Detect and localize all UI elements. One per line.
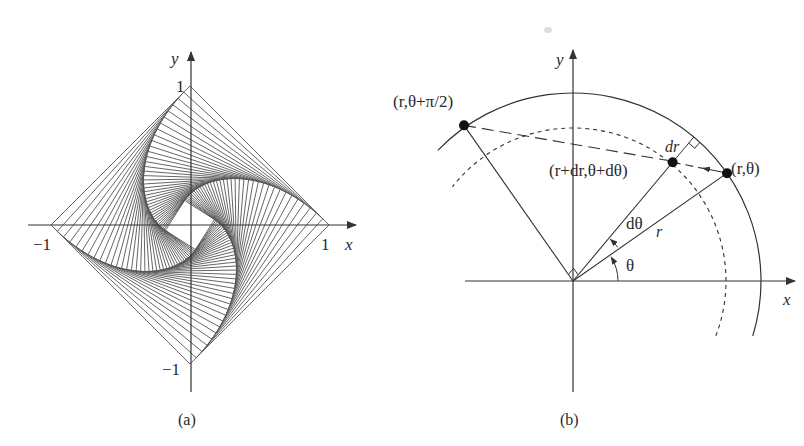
caption-b: (b) bbox=[560, 411, 579, 429]
label-point-r-dr: (r+dr,θ+dθ) bbox=[549, 161, 628, 180]
label-dtheta: dθ bbox=[626, 214, 643, 233]
pursuit-chord bbox=[212, 203, 304, 339]
pursuit-chord bbox=[88, 255, 220, 327]
dashed-chase-line-short bbox=[673, 162, 707, 169]
radius-line-theta-pi2 bbox=[464, 125, 573, 281]
pursuit-chord bbox=[196, 219, 322, 358]
theta-angle-arc bbox=[611, 257, 618, 281]
pursuit-chord bbox=[178, 99, 316, 214]
x-axis-label-b: x bbox=[782, 290, 791, 309]
right-angle-marker-dr bbox=[689, 142, 700, 148]
point-r-theta-pi2 bbox=[459, 120, 469, 130]
caption-a: (a) bbox=[178, 411, 196, 429]
dtheta-angle-arc bbox=[610, 239, 617, 247]
label-point-r-theta: (r,θ) bbox=[731, 159, 760, 178]
dashed-chase-line-long bbox=[464, 125, 667, 160]
tick-label-y-neg: −1 bbox=[162, 360, 180, 379]
panel-b: x y (r,θ) (r,θ+π/2) (r+dr,θ+dθ) dr r bbox=[393, 50, 795, 429]
pursuit-chord bbox=[168, 111, 304, 203]
inner-dashed-arc bbox=[452, 128, 726, 336]
pursuit-chord bbox=[184, 92, 323, 218]
pursuit-chord bbox=[57, 92, 183, 231]
pursuit-chord bbox=[160, 123, 292, 195]
label-theta: θ bbox=[626, 256, 634, 275]
velocity-arrow bbox=[703, 168, 723, 172]
pursuit-chord bbox=[223, 192, 286, 321]
x-axis-label-a: x bbox=[344, 235, 353, 254]
tick-label-x-neg: −1 bbox=[33, 235, 51, 254]
pursuit-chord bbox=[94, 129, 157, 258]
smudge-mark bbox=[544, 27, 552, 33]
pursuit-chord bbox=[76, 111, 168, 247]
pursuit-chord bbox=[94, 258, 223, 321]
figure-canvas: x y 1 −1 1 −1 (a) x y bbox=[0, 0, 804, 446]
pursuit-chord bbox=[64, 237, 202, 352]
pursuit-chord bbox=[220, 195, 292, 327]
label-point-r-theta-pi2: (r,θ+π/2) bbox=[393, 92, 453, 111]
y-axis-label-b: y bbox=[554, 50, 564, 69]
pursuit-chord bbox=[88, 123, 160, 255]
label-dr: dr bbox=[665, 138, 680, 155]
pursuit-chord bbox=[202, 213, 317, 351]
label-r: r bbox=[656, 223, 663, 240]
point-r-dr-theta-dtheta bbox=[668, 157, 678, 167]
pursuit-chord bbox=[157, 129, 286, 192]
tick-label-y-pos: 1 bbox=[176, 77, 185, 96]
tick-label-x-pos: 1 bbox=[321, 235, 330, 254]
pursuit-chord bbox=[57, 231, 196, 357]
y-axis-label-a: y bbox=[169, 49, 179, 68]
pursuit-chord bbox=[64, 99, 179, 237]
panel-a: x y 1 −1 1 −1 (a) bbox=[28, 49, 356, 429]
